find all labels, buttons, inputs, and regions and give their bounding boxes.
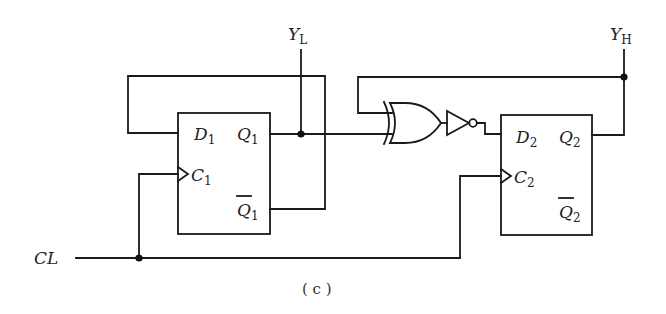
cl-to-c1-wire [139, 174, 178, 258]
not-triangle [447, 111, 469, 135]
ff1-c-label: C1 [191, 165, 212, 188]
xor-body [390, 103, 441, 143]
ff1-d-label: D1 [193, 124, 215, 147]
cl-input-label: CL [34, 248, 58, 268]
yh-junction-dot [620, 73, 627, 80]
yl-output-label: YL [288, 24, 307, 47]
clock-triangle-1-icon [178, 167, 188, 181]
cl-to-c2-wire [460, 176, 501, 258]
ff1-qbar-label: Q1 [237, 200, 259, 223]
flipflop-2: D2 Q2 C2 Q2 [501, 115, 592, 235]
xor-gate [384, 102, 441, 144]
not-to-d2-wire [477, 123, 501, 134]
clock-triangle-2-icon [501, 169, 511, 183]
not-gate [447, 111, 477, 135]
ff2-d-label: D2 [515, 127, 537, 150]
xor-input-arc [384, 102, 389, 144]
flipflop-1: D1 Q1 C1 Q1 [178, 113, 270, 234]
figure-caption: ( c ) [302, 280, 332, 298]
ff2-q-label: Q2 [559, 127, 581, 150]
q2-feedback-wire [358, 77, 624, 135]
yl-junction-dot [297, 130, 304, 137]
ff2-c-label: C2 [514, 167, 535, 190]
circuit-diagram: D1 Q1 C1 Q1 D2 Q2 C2 Q2 CL Y [0, 0, 666, 314]
yh-output-label: YH [610, 24, 632, 47]
cl-junction-dot [135, 254, 142, 261]
ff1-q-label: Q1 [237, 124, 259, 147]
ff1-feedback-wire [128, 76, 325, 209]
ff2-qbar-label: Q2 [559, 202, 581, 225]
